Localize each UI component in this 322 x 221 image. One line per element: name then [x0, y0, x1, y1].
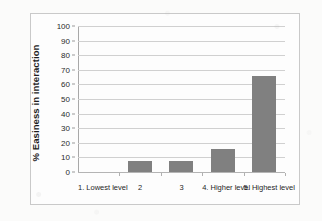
- y-axis-tick-mark: [72, 26, 75, 27]
- x-axis-tick-label: 4. Higher level: [202, 182, 243, 194]
- bars-layer: [78, 26, 285, 172]
- bar[interactable]: [211, 149, 235, 172]
- y-axis-tick-label: 70: [61, 65, 70, 74]
- plot-area: [78, 26, 285, 172]
- y-axis-tick-mark: [72, 84, 75, 85]
- y-axis-tick-mark: [72, 55, 75, 56]
- y-axis-tick-mark: [72, 69, 75, 70]
- bar-slot: [202, 26, 243, 172]
- x-axis-tick-label: 1. Lowest level: [78, 182, 119, 194]
- bar-slot: [244, 26, 285, 172]
- x-axis-tick-mark: [244, 173, 245, 176]
- y-axis-tick-mark: [72, 99, 75, 100]
- bar-slot: [161, 26, 202, 172]
- y-axis-tick-label: 20: [61, 138, 70, 147]
- y-axis-tick-label: 10: [61, 153, 70, 162]
- y-axis-tick-mark: [72, 142, 75, 143]
- bar[interactable]: [128, 161, 152, 172]
- y-axis-tick-label: 0: [66, 168, 70, 177]
- y-axis-tick-label: 30: [61, 124, 70, 133]
- x-axis-tick-mark: [285, 173, 286, 176]
- y-axis-tick-mark: [72, 40, 75, 41]
- x-axis-tick-mark: [119, 173, 120, 176]
- chart-frame: % Easiness in interaction 01020304050607…: [30, 13, 300, 205]
- y-axis-tick-label: 40: [61, 109, 70, 118]
- x-axis-tick-mark: [202, 173, 203, 176]
- bar-slot: [78, 26, 119, 172]
- y-axis-tick-mark: [72, 157, 75, 158]
- x-axis-tick-mark: [161, 173, 162, 176]
- x-axis-tick-labels: 1. Lowest level234. Higher level5. Highe…: [78, 182, 285, 196]
- y-axis-tick-label: 50: [61, 95, 70, 104]
- x-axis-tick-label: 5. Highest level: [244, 182, 285, 194]
- gridline: [78, 172, 285, 173]
- y-axis-tick-labels: 0102030405060708090100: [31, 26, 75, 172]
- y-axis-tick-label: 60: [61, 80, 70, 89]
- y-axis-tick-mark: [72, 113, 75, 114]
- x-axis-tick-label: 3: [161, 182, 202, 194]
- bar-slot: [119, 26, 160, 172]
- y-axis-tick-label: 100: [57, 22, 70, 31]
- y-axis-tick-label: 80: [61, 51, 70, 60]
- y-axis-tick-mark: [72, 172, 75, 173]
- bar[interactable]: [169, 161, 193, 172]
- y-axis-tick-mark: [72, 128, 75, 129]
- x-axis-tick-label: 2: [119, 182, 160, 194]
- y-axis-tick-label: 90: [61, 36, 70, 45]
- bar[interactable]: [252, 76, 276, 172]
